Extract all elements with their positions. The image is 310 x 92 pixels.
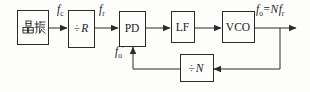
reference-frequency-label: fr xyxy=(99,3,105,18)
phase-detector-label: PD xyxy=(125,22,140,34)
divide-by-r-label: ÷R xyxy=(74,22,88,34)
line-divn-to-pd-feedback xyxy=(133,47,180,69)
vco-label: VCO xyxy=(226,21,250,33)
loop-filter-label: LF xyxy=(176,21,189,33)
crystal-frequency-label: fc xyxy=(57,3,64,18)
pll-frequency-synthesizer-diagram: 晶振 ÷R PD LF VCO ÷N fc f xyxy=(0,0,310,92)
diagram-canvas: 晶振 ÷R PD LF VCO ÷N fc f xyxy=(0,0,310,92)
output-frequency-label: fo=Nfr xyxy=(256,3,285,18)
line-output-branch-to-divn xyxy=(214,28,280,69)
divide-by-n-label: ÷N xyxy=(189,62,205,74)
feedback-frequency-label: fo′ xyxy=(115,45,124,60)
